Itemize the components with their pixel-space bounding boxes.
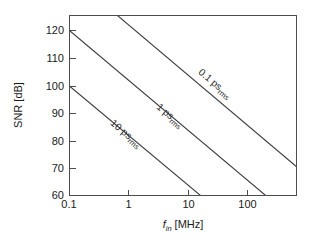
y-tick-label-90: 90 xyxy=(52,107,64,119)
y-tick-label-80: 80 xyxy=(52,135,64,147)
x-tick-label-0.1: 0.1 xyxy=(61,198,76,210)
snr-vs-frequency-chart: 120 110 100 90 80 70 60 0.1 1 10 100 SNR… xyxy=(0,0,313,239)
y-tick-label-110: 110 xyxy=(46,52,64,64)
x-axis-title-unit: [MHz] xyxy=(172,218,204,230)
y-tick-label-120: 120 xyxy=(46,24,64,36)
y-axis-title: SNR [dB] xyxy=(12,82,24,128)
x-tick-label-10: 10 xyxy=(182,198,194,210)
x-tick-label-1: 1 xyxy=(125,198,131,210)
chart-figure: 120 110 100 90 80 70 60 0.1 1 10 100 SNR… xyxy=(0,0,313,239)
x-tick-label-100: 100 xyxy=(238,198,256,210)
y-tick-label-100: 100 xyxy=(46,80,64,92)
y-tick-label-70: 70 xyxy=(52,162,64,174)
